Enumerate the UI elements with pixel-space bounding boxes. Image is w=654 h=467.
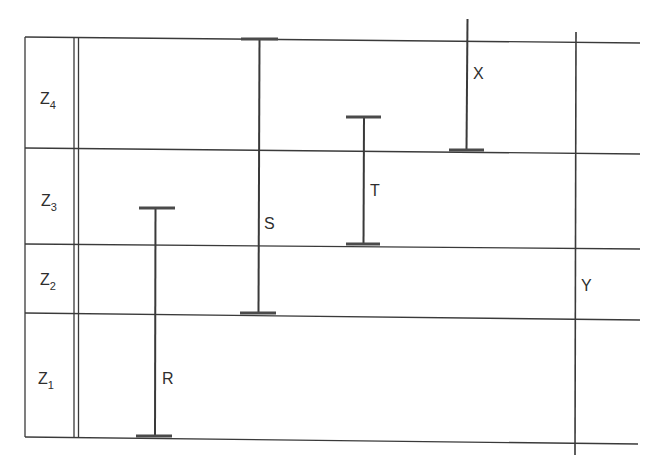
bottom-boundary-line	[25, 437, 638, 444]
zone-column	[25, 37, 79, 438]
zone-label-z1: Z1	[38, 370, 54, 391]
range-label-s: S	[264, 215, 275, 232]
range-label-r: R	[162, 370, 174, 387]
range-s-line	[259, 39, 260, 312]
range-label-x: X	[473, 65, 484, 82]
range-y-line	[575, 32, 576, 455]
range-x-line	[467, 19, 468, 150]
range-bar-t: T	[346, 117, 381, 244]
range-bar-r: R	[136, 208, 175, 436]
range-bar-s: S	[240, 39, 278, 313]
range-label-y: Y	[581, 277, 592, 294]
top-boundary-line	[25, 37, 640, 43]
range-t-line	[364, 117, 365, 244]
range-bar-x: X	[449, 19, 484, 150]
zone-label-z3: Z3	[41, 192, 57, 213]
z3-z2-boundary-line	[25, 244, 640, 249]
range-bar-y: Y	[575, 32, 592, 455]
zone-label-z4: Z4	[40, 90, 56, 111]
z2-z1-boundary-line	[25, 313, 640, 320]
z4-z3-boundary-line	[25, 148, 640, 154]
zone-boundaries	[25, 37, 640, 444]
range-label-t: T	[370, 182, 380, 199]
zone-label-z2: Z2	[40, 271, 56, 292]
range-r-line	[155, 208, 156, 436]
range-chart-diagram: Z4 Z3 Z2 Z1 R S T X Y	[0, 0, 654, 467]
